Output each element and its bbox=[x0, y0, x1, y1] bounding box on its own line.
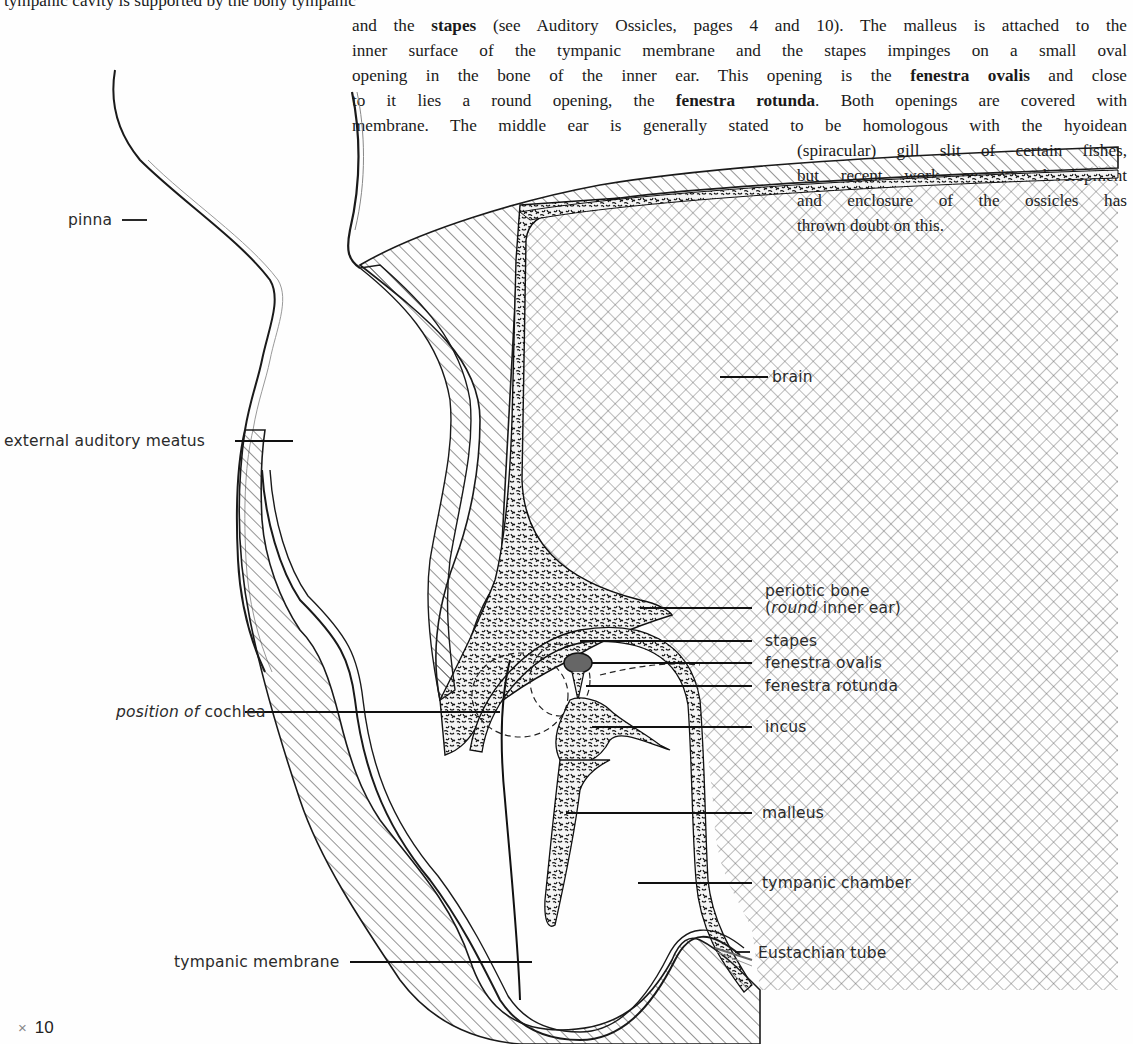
label-pinna: pinna bbox=[68, 211, 112, 229]
stapes-shape bbox=[564, 653, 592, 673]
middle-ear-diagram bbox=[0, 0, 1133, 1044]
label-tympanic-chamber: tympanic chamber bbox=[762, 874, 911, 892]
label-brain: brain bbox=[772, 368, 813, 386]
incus-shape bbox=[556, 698, 670, 764]
label-periotic-bone-subtitle: (round inner ear) bbox=[765, 599, 901, 617]
multiply-icon: × bbox=[18, 1019, 27, 1036]
magnification-note: ×10 bbox=[18, 1018, 54, 1038]
label-fenestra-rotunda: fenestra rotunda bbox=[765, 677, 898, 695]
label-malleus: malleus bbox=[762, 804, 824, 822]
label-tympanic-membrane: tympanic membrane bbox=[174, 953, 339, 971]
label-periotic-bone: periotic bone bbox=[765, 582, 870, 600]
label-external-auditory-meatus: external auditory meatus bbox=[4, 432, 205, 450]
label-position-of-cochlea: position of cochlea bbox=[116, 703, 266, 721]
magnification-value: 10 bbox=[35, 1018, 54, 1037]
label-incus: incus bbox=[765, 718, 807, 736]
label-fenestra-ovalis: fenestra ovalis bbox=[765, 654, 882, 672]
label-eustachian-tube: Eustachian tube bbox=[758, 944, 886, 962]
textbook-page: tympanic cavity is supported by the bony… bbox=[0, 0, 1133, 1044]
label-stapes: stapes bbox=[765, 632, 817, 650]
